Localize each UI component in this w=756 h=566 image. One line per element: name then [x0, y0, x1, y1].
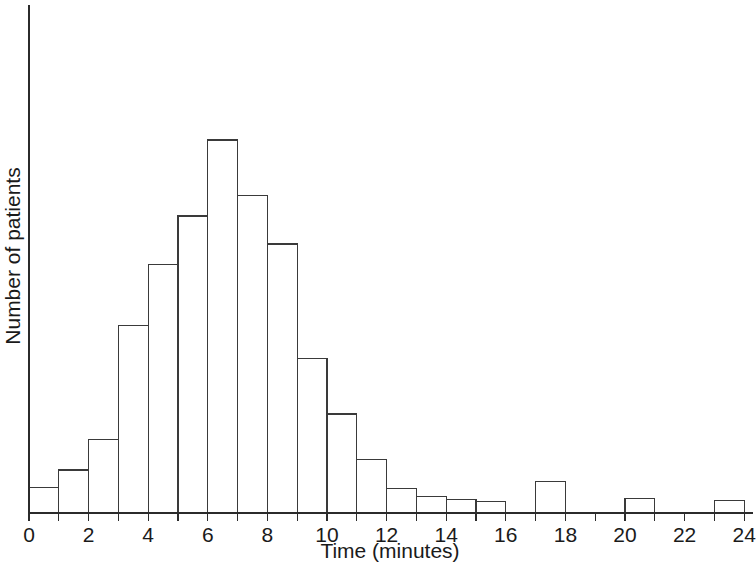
x-axis-ticks	[29, 513, 744, 521]
x-axis-tick-label: 18	[554, 523, 577, 546]
x-axis-tick-label: 0	[23, 523, 35, 546]
x-axis-title: Time (minutes)	[320, 539, 459, 562]
histogram-bar-run	[625, 498, 655, 513]
histogram-figure: 024681012141618202224 Time (minutes) Num…	[0, 0, 756, 566]
histogram-svg: 024681012141618202224 Time (minutes) Num…	[0, 0, 756, 566]
x-axis-tick-label: 24	[733, 523, 756, 546]
x-axis-tick-label: 8	[262, 523, 274, 546]
histogram-bar-run	[536, 482, 566, 514]
x-axis-tick-label: 6	[202, 523, 214, 546]
x-axis-tick-label: 22	[673, 523, 696, 546]
x-axis-tick-label: 2	[83, 523, 95, 546]
histogram-bar-run	[714, 500, 744, 513]
y-axis-title: Number of patients	[1, 167, 24, 344]
x-axis-tick-label: 16	[494, 523, 517, 546]
histogram-bars	[29, 140, 744, 513]
x-axis-tick-label: 20	[613, 523, 636, 546]
x-axis-tick-label: 4	[142, 523, 154, 546]
